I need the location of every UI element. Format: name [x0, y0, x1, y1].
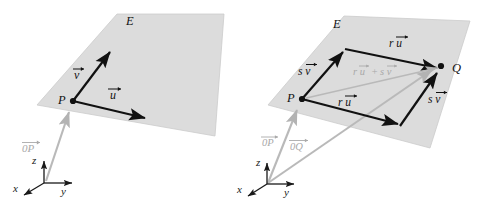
vector-op-label: 0P — [262, 137, 274, 148]
vector-diagonal-label-plus: + — [371, 66, 378, 77]
coordinate-axes-left: z y x — [12, 154, 72, 197]
plane-label-e: E — [332, 17, 341, 31]
axis-x-line — [24, 183, 44, 195]
left-panel: E 0P P v u z y — [12, 14, 224, 197]
point-p-label: P — [57, 93, 66, 107]
vector-op-label-arrowhead — [275, 135, 278, 139]
axis-z-label: z — [31, 154, 37, 166]
vector-oq-label-arrowhead — [305, 139, 308, 143]
vector-diagonal-label-ru: r u — [353, 66, 365, 77]
axis-x-label: x — [12, 182, 18, 194]
point-p-label: P — [286, 91, 295, 105]
vector-diagonal-label-sv: s v — [380, 66, 392, 77]
point-q-label: Q — [452, 61, 461, 75]
vector-oq-label-group: 0Q — [289, 139, 308, 152]
vector-diagonal-label-group: r u + s v — [353, 64, 397, 77]
plane-label-e: E — [125, 14, 134, 28]
vector-op-line — [46, 112, 69, 181]
axis-y-label: y — [60, 185, 66, 197]
point-p-dot — [299, 96, 305, 102]
right-panel: E 0P 0Q s v r u — [236, 16, 470, 198]
vector-sv-lower-label: s v — [428, 93, 441, 105]
point-q-dot — [438, 63, 444, 69]
vector-op-label-arrowhead — [37, 141, 40, 145]
axis-x-line — [248, 184, 267, 196]
vector-sv-upper-label: s v — [298, 65, 311, 77]
axis-x-label: x — [236, 183, 242, 195]
vector-plane-diagram: E 0P P v u z y — [0, 0, 492, 203]
vector-ru-lower-label: r u — [338, 96, 351, 108]
vector-op-label-group: 0P — [261, 135, 278, 148]
vector-ru-upper-label: r u — [389, 37, 402, 49]
plane-e-right — [268, 16, 470, 148]
vector-oq-label: 0Q — [290, 141, 303, 152]
vector-op-label: 0P — [22, 142, 35, 154]
vector-op-label-group: 0P — [22, 141, 40, 154]
axis-y-label: y — [283, 186, 289, 198]
vector-v-label: v — [74, 68, 80, 82]
axis-z-label: z — [255, 156, 261, 168]
plane-e-left — [37, 14, 224, 136]
coordinate-axes-right: z y x — [236, 156, 294, 198]
vector-u-label: u — [110, 88, 116, 102]
